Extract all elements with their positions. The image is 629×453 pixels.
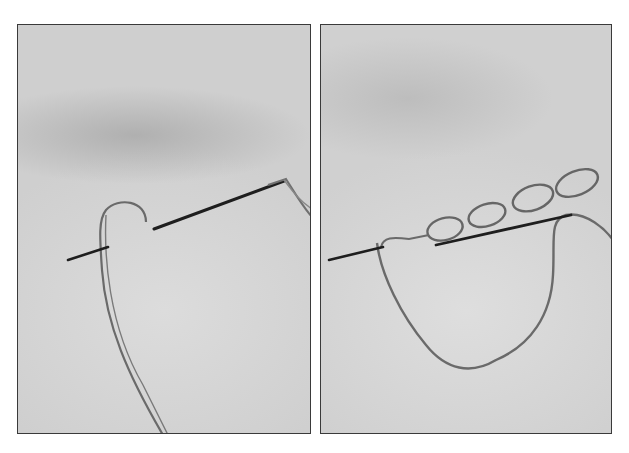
chain-stitch-illustration-right xyxy=(321,25,612,434)
needle-and-thread-illustration-left xyxy=(18,25,311,434)
photo-panel-left xyxy=(17,24,311,434)
photo-panel-right xyxy=(320,24,612,434)
